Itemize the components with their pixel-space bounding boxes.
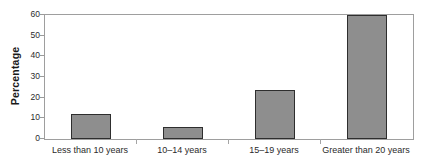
bars-container <box>45 15 413 139</box>
y-axis-tick-label: 40 <box>24 51 40 60</box>
x-axis-tick-label: 10–14 years <box>157 146 207 156</box>
y-axis-tick-label: 20 <box>24 92 40 101</box>
bar <box>255 90 295 139</box>
plot-area <box>44 14 414 140</box>
bar <box>71 114 111 139</box>
bar <box>163 127 203 139</box>
y-axis-label-text: Percentage <box>9 47 21 106</box>
x-axis-tick-mark <box>320 139 321 144</box>
y-axis-tick-labels: 0102030405060 <box>22 0 40 168</box>
x-axis-tick-label: 15–19 years <box>249 146 299 156</box>
y-axis-tick-label: 50 <box>24 30 40 39</box>
y-axis-tick-label: 60 <box>24 10 40 19</box>
y-axis-tick-label: 30 <box>24 72 40 81</box>
x-axis-tick-label: Less than 10 years <box>52 146 128 156</box>
x-axis-tick-mark <box>136 139 137 144</box>
x-axis-tick-mark <box>228 139 229 144</box>
bar-chart-figure: Percentage 0102030405060 Less than 10 ye… <box>0 0 424 168</box>
bar <box>347 15 387 139</box>
x-axis-tick-label: Greater than 20 years <box>322 146 410 156</box>
y-axis-tick-label: 10 <box>24 113 40 122</box>
y-axis-tick-label: 0 <box>24 134 40 143</box>
